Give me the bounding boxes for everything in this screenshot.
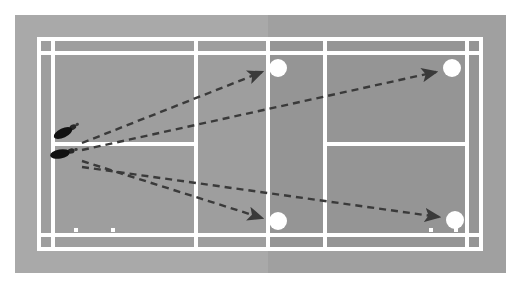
shuttle-landing-3: [269, 212, 287, 230]
court-marker-dot-center-left: [111, 228, 115, 232]
badminton-court-figure: [15, 15, 506, 273]
shuttle-landing-2: [443, 59, 461, 77]
figure-page: [0, 0, 520, 292]
court-diagram-svg: [15, 15, 506, 273]
shuttle-landing-1: [269, 59, 287, 77]
court-marker-dot-right: [429, 228, 433, 232]
shuttle-landing-4: [446, 211, 464, 229]
court-marker-dot-left: [74, 228, 78, 232]
